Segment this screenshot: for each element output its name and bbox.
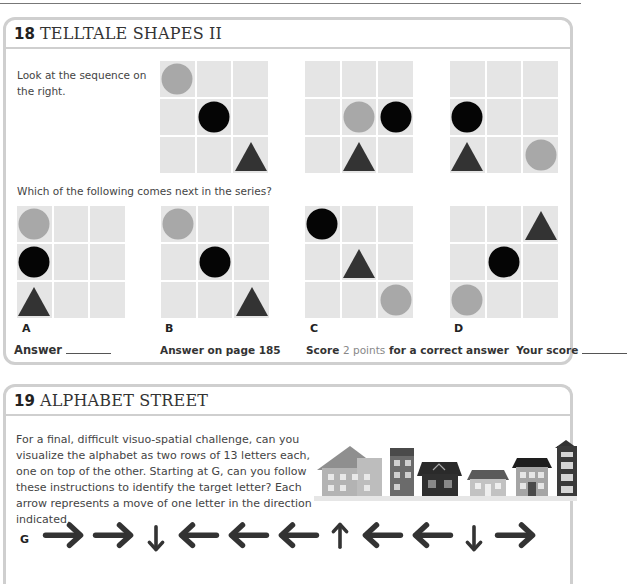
grey-circle-shape xyxy=(380,285,411,316)
puzzle-18-header: 18 TELLTALE SHAPES II xyxy=(6,20,570,49)
grid-cell xyxy=(378,137,413,173)
arrow-right-icon xyxy=(91,512,137,562)
grid-cell xyxy=(160,61,195,97)
sequence-grid-3 xyxy=(450,61,558,173)
grid-cell xyxy=(523,206,558,242)
option-a-grid[interactable] xyxy=(17,206,125,318)
answer-label: Answer xyxy=(14,343,62,357)
grey-circle-shape xyxy=(19,209,50,240)
grid-cell xyxy=(378,206,413,242)
grid-cell xyxy=(197,61,232,97)
grid-cell xyxy=(198,282,233,318)
grid-cell xyxy=(17,282,52,318)
triangle-shape xyxy=(343,142,375,171)
arrow-left-icon xyxy=(225,512,271,562)
grid-cell xyxy=(305,244,340,280)
grey-circle-shape xyxy=(343,102,374,133)
grid-cell xyxy=(54,244,89,280)
black-circle-shape xyxy=(307,209,338,240)
grid-cell xyxy=(197,99,232,135)
black-circle-shape xyxy=(198,102,229,133)
grid-cell xyxy=(160,137,195,173)
grid-cell xyxy=(197,137,232,173)
grid-cell xyxy=(378,99,413,135)
grid-cell xyxy=(342,282,377,318)
grid-cell xyxy=(342,244,377,280)
grid-cell xyxy=(90,206,125,242)
grid-cell xyxy=(305,61,340,97)
arrow-right-icon xyxy=(41,512,87,562)
score-prefix: Score xyxy=(306,344,339,356)
answer-page-note: Answer on page 185 xyxy=(160,344,281,356)
option-c-label: C xyxy=(310,322,318,335)
grid-cell xyxy=(233,99,268,135)
puzzle-number: 18 xyxy=(14,25,35,43)
grid-cell xyxy=(342,61,377,97)
triangle-shape xyxy=(525,211,557,240)
grid-cell xyxy=(305,282,340,318)
option-b-grid[interactable] xyxy=(161,206,269,318)
grid-cell xyxy=(450,206,485,242)
your-score-blank[interactable] xyxy=(582,344,627,354)
grid-cell xyxy=(54,206,89,242)
grid-cell xyxy=(161,282,196,318)
houses-street-illustration xyxy=(312,430,577,502)
grey-circle-shape xyxy=(452,285,483,316)
grid-cell xyxy=(198,244,233,280)
grid-cell xyxy=(378,61,413,97)
triangle-shape xyxy=(343,249,375,278)
triangle-shape xyxy=(451,142,483,171)
grid-cell xyxy=(234,244,269,280)
arrow-down-icon xyxy=(141,512,171,562)
triangle-shape xyxy=(18,287,50,316)
triangle-shape xyxy=(235,142,267,171)
arrow-left-icon xyxy=(359,512,405,562)
black-circle-shape xyxy=(199,247,230,278)
grid-cell xyxy=(233,137,268,173)
grid-cell xyxy=(487,282,522,318)
grid-cell xyxy=(487,61,522,97)
grid-cell xyxy=(160,99,195,135)
sequence-grid-2 xyxy=(305,61,413,173)
grid-cell xyxy=(305,137,340,173)
grid-cell xyxy=(523,99,558,135)
arrow-up-icon xyxy=(325,512,355,562)
puzzle-number: 19 xyxy=(14,392,35,410)
your-score-label: Your score xyxy=(516,344,578,356)
start-letter: G xyxy=(20,533,29,546)
option-c-grid[interactable] xyxy=(305,206,413,318)
arrow-left-icon xyxy=(409,512,455,562)
arrow-down-icon xyxy=(459,512,489,562)
arrow-list xyxy=(41,512,543,562)
grid-cell xyxy=(450,282,485,318)
grid-cell xyxy=(305,206,340,242)
grid-cell xyxy=(378,282,413,318)
option-a-label: A xyxy=(22,322,31,335)
black-circle-shape xyxy=(488,247,519,278)
grid-cell xyxy=(450,61,485,97)
grid-cell xyxy=(17,206,52,242)
puzzle-19-header: 19 ALPHABET STREET xyxy=(6,387,570,416)
option-d-grid[interactable] xyxy=(450,206,558,318)
answer-field[interactable]: Answer xyxy=(14,343,111,357)
score-suffix: for a correct answer xyxy=(389,344,509,356)
grid-cell xyxy=(305,99,340,135)
score-points: 2 points xyxy=(343,344,385,356)
grid-cell xyxy=(161,244,196,280)
arrow-sequence: G xyxy=(20,512,543,562)
answer-blank[interactable] xyxy=(66,344,111,354)
triangle-shape xyxy=(236,287,268,316)
grid-cell xyxy=(378,244,413,280)
grid-cell xyxy=(342,206,377,242)
black-circle-shape xyxy=(19,247,50,278)
option-d-label: D xyxy=(454,322,463,335)
black-circle-shape xyxy=(452,102,483,133)
sequence-grid-1 xyxy=(160,61,268,173)
question-text: Which of the following comes next in the… xyxy=(17,183,417,199)
grid-cell xyxy=(450,244,485,280)
grid-cell xyxy=(487,137,522,173)
grid-cell xyxy=(523,282,558,318)
grid-cell xyxy=(54,282,89,318)
grid-cell xyxy=(17,244,52,280)
grid-cell xyxy=(90,244,125,280)
